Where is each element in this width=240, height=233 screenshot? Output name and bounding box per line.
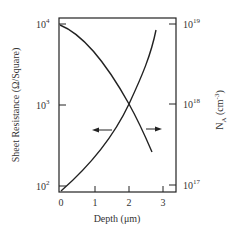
arrow-right-icon	[155, 127, 162, 132]
y-left-label-4: 104	[36, 17, 50, 30]
y-left-label-2: 102	[36, 179, 50, 192]
x-label-2: 2	[127, 197, 132, 208]
y-right-axis-title: NA (cm-3)	[213, 90, 228, 130]
y-right-label-17: 1017	[183, 178, 201, 191]
y-left-axis-title: Sheet Resistance (Ω/Square)	[10, 48, 22, 163]
sheet-resistance-curve	[61, 30, 156, 191]
arrow-left-icon	[92, 128, 99, 133]
y-right-label-19: 1019	[183, 17, 201, 30]
y-left-label-3: 103	[36, 98, 50, 111]
x-label-0: 0	[59, 197, 64, 208]
plot-frame	[59, 18, 176, 192]
sheet-resistance-chart: 104 103 102 1019 1018 1017 0 1 2 3 Depth…	[0, 0, 240, 233]
na-curve	[60, 25, 152, 152]
y-right-label-18: 1018	[183, 97, 201, 110]
x-axis-title: Depth (μm)	[94, 213, 141, 225]
x-label-1: 1	[93, 197, 98, 208]
x-label-3: 3	[161, 197, 166, 208]
